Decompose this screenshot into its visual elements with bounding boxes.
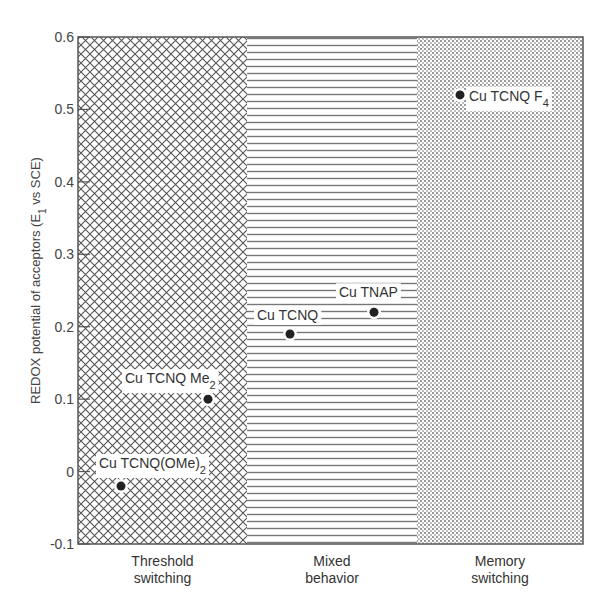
point-marker (286, 329, 295, 338)
y-tick-label: 0.5 (55, 101, 75, 117)
data-point: Cu TCNQ F4 (453, 87, 552, 111)
category-label: behavior (305, 570, 359, 586)
y-tick-label: 0.3 (55, 246, 75, 262)
point-marker (370, 308, 379, 317)
category-label: switching (471, 570, 529, 586)
y-tick-label: 0 (66, 464, 74, 480)
category-label: switching (134, 570, 192, 586)
y-tick-label: 0.6 (55, 29, 75, 45)
point-label: Cu TNAP (339, 284, 398, 300)
y-axis-title: REDOX potential of acceptors (E1 vs SCE) (28, 157, 48, 404)
category-label: Memory (475, 553, 526, 569)
category-labels: ThresholdswitchingMixedbehaviorMemoryswi… (131, 553, 528, 586)
y-tick-label: 0.2 (55, 319, 75, 335)
point-marker (456, 90, 465, 99)
region-dots (417, 37, 583, 544)
point-label: Cu TCNQ (257, 307, 318, 323)
y-tick-label: -0.1 (50, 536, 74, 552)
y-tick-label: 0.1 (55, 391, 75, 407)
point-marker (117, 482, 126, 491)
category-label: Threshold (131, 553, 193, 569)
point-marker (204, 395, 213, 404)
chart: 0.60.50.40.30.20.10-0.1 REDOX potential … (0, 0, 607, 609)
svg-text:REDOX potential of acceptors (: REDOX potential of acceptors (E1 vs SCE) (28, 157, 48, 404)
y-tick-label: 0.4 (55, 174, 75, 190)
category-label: Mixed (313, 553, 350, 569)
